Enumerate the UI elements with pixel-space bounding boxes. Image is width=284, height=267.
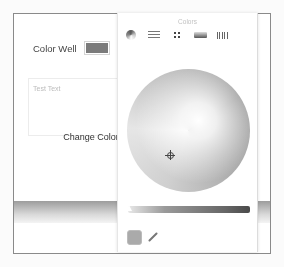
test-text-area[interactable]: Test Text [28,78,124,136]
brightness-knob[interactable] [126,205,132,211]
tab-color-palettes[interactable] [170,30,184,40]
colors-panel: Colors [117,13,258,252]
current-color-swatch[interactable] [127,230,142,245]
tab-image-palettes[interactable] [193,30,207,40]
color-well-swatch [86,43,108,53]
panel-title: Colors [118,18,257,25]
color-wheel-icon [126,30,136,40]
palette-icon [173,31,181,39]
tab-color-wheel[interactable] [124,30,138,40]
tab-pencils[interactable] [216,30,230,40]
sliders-icon [148,31,160,39]
eyedropper-icon[interactable] [148,232,158,242]
brightness-slider[interactable] [128,206,250,213]
pencils-icon [217,32,229,39]
text-area-placeholder: Test Text [33,85,61,92]
colors-toolbar [124,30,230,40]
crosshair-icon[interactable] [165,150,175,160]
image-palette-icon [194,32,207,38]
color-well-label: Color Well [33,43,77,54]
tab-color-sliders[interactable] [147,30,161,40]
color-wheel[interactable] [127,69,250,192]
color-well[interactable] [84,41,110,55]
